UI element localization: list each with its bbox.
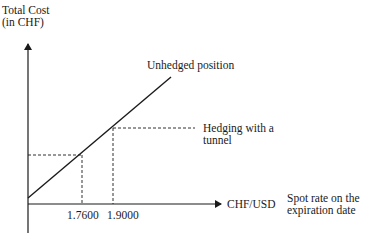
x-tick-1900: 1.9000 [107, 209, 139, 221]
x-axis-note-line2: expiration date [287, 204, 356, 216]
unhedged-position-label: Unhedged position [147, 59, 234, 71]
x-axis-label: CHF/USD [227, 198, 276, 210]
hedging-label-line2: tunnel [203, 134, 232, 146]
y-axis-title-line1: Total Cost [2, 4, 49, 16]
y-axis-title-line2: (in CHF) [2, 16, 44, 28]
x-tick-1760: 1.7600 [67, 209, 99, 221]
x-axis-note-line1: Spot rate on the [287, 192, 360, 204]
hedging-label-line1: Hedging with a [203, 122, 274, 134]
unhedged-position-line [28, 77, 171, 198]
